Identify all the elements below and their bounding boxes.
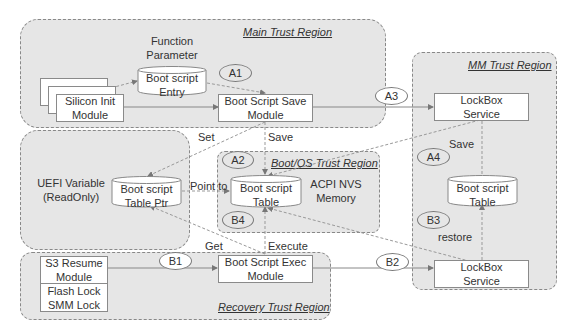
function-parameter-label: Function Parameter [142, 34, 202, 62]
step-marker-b1: B1 [159, 252, 192, 270]
boot-os-trust-region-title: Boot/OS Trust Region [271, 157, 378, 169]
s3-resume-module[interactable]: S3 Resume Module [40, 256, 108, 284]
silicon-init-module[interactable]: Silicon Init Module [56, 94, 124, 122]
recovery-trust-region-title: Recovery Trust Region [218, 301, 330, 313]
mm-trust-region [412, 52, 557, 290]
mm-trust-region-title: MM Trust Region [468, 59, 552, 71]
edge-label-point-to: Point to [190, 180, 227, 192]
step-marker-b4: B4 [222, 211, 254, 229]
edge-label-restore: restore [438, 231, 472, 243]
step-marker-a4: A4 [417, 148, 450, 166]
step-marker-a3: A3 [375, 87, 408, 105]
edge-label-save-mm: Save [449, 138, 474, 150]
edge-label-save-main: Save [268, 131, 293, 143]
step-marker-b3: B3 [417, 211, 450, 229]
edge-label-get: Get [205, 240, 223, 252]
boot-script-table-mm[interactable]: Boot script Table [447, 175, 518, 207]
boot-script-entry[interactable]: Boot script Entry [137, 66, 207, 96]
lockbox-service-bottom[interactable]: LockBox Service [434, 260, 529, 288]
main-trust-region-title: Main Trust Region [243, 26, 332, 38]
edge-label-execute: Execute [268, 240, 308, 252]
acpi-nvs-memory-label: ACPI NVS Memory [306, 177, 366, 205]
step-marker-b2: B2 [376, 253, 409, 271]
edge-label-set: Set [198, 131, 215, 143]
boot-script-table-acpi[interactable]: Boot script Table [230, 175, 302, 208]
silicon-init-line1: Silicon Init [65, 94, 115, 108]
step-marker-a1: A1 [219, 64, 252, 82]
lockbox-service-top[interactable]: LockBox Service [434, 93, 529, 121]
silicon-init-line2: Module [72, 108, 108, 122]
boot-script-exec-module[interactable]: Boot Script Exec Module [218, 255, 313, 283]
flash-smm-lock[interactable]: Flash Lock SMM Lock [40, 283, 108, 312]
boot-script-save-module[interactable]: Boot Script Save Module [218, 94, 313, 122]
boot-script-table-ptr[interactable]: Boot script Table Ptr [111, 176, 182, 208]
step-marker-a2: A2 [222, 151, 254, 169]
uefi-variable-label: UEFI Variable (ReadOnly) [36, 176, 106, 204]
